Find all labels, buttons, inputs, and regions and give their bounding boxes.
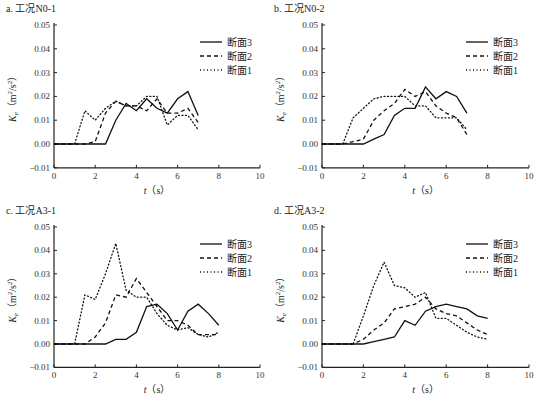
x-tick-label: 4	[403, 370, 408, 380]
x-tick-label: 0	[52, 171, 57, 181]
x-tick-label: 6	[444, 171, 449, 181]
x-tick-label: 10	[525, 370, 535, 380]
x-tick-label: 4	[134, 370, 139, 380]
y-tick-label: 0.01	[34, 316, 50, 326]
x-tick-label: 0	[320, 370, 325, 380]
panel-title: b. 工况N0-2	[274, 3, 325, 14]
x-tick-label: 2	[93, 370, 98, 380]
x-tick-label: 4	[403, 171, 408, 181]
legend-label: 断面1	[227, 64, 252, 76]
y-tick-label: 0.00	[34, 139, 50, 149]
y-tick-label: 0.05	[34, 20, 50, 30]
x-tick-label: 6	[175, 171, 180, 181]
y-tick-label: 0.02	[34, 91, 50, 101]
y-tick-label: 0.02	[302, 91, 318, 101]
x-tick-label: 8	[485, 370, 490, 380]
y-tick-label: 0.01	[302, 115, 318, 125]
x-axis-label: t（s）	[144, 384, 171, 395]
y-tick-label: 0.04	[34, 245, 50, 255]
series-line-solid	[54, 304, 219, 344]
y-tick-label: 0.03	[302, 68, 318, 78]
y-tick-label: 0.04	[302, 44, 318, 54]
panel-c-a3-1: c. 工况A3-1−0.010.000.010.020.030.040.0502…	[6, 205, 265, 395]
series-line-dashed	[54, 279, 219, 345]
legend-label: 断面3	[493, 238, 518, 250]
figure-canvas: a. 工况N0-1−0.010.000.010.020.030.040.0502…	[0, 0, 539, 406]
x-tick-label: 6	[175, 370, 180, 380]
x-tick-label: 0	[320, 171, 325, 181]
y-tick-label: 0.04	[34, 44, 50, 54]
x-tick-label: 10	[525, 171, 535, 181]
x-axis-label: t（s）	[412, 185, 439, 196]
x-tick-label: 2	[361, 171, 366, 181]
y-tick-label: −0.01	[29, 362, 50, 372]
y-tick-label: 0.03	[34, 269, 50, 279]
y-tick-label: −0.01	[297, 362, 318, 372]
x-tick-label: 10	[256, 370, 266, 380]
x-tick-label: 2	[93, 171, 98, 181]
legend-label: 断面2	[227, 252, 252, 264]
legend-label: 断面1	[493, 64, 518, 76]
panel-title: d. 工况A3-2	[274, 205, 325, 216]
x-tick-label: 8	[217, 171, 222, 181]
legend-label: 断面3	[493, 36, 518, 48]
panel-title: a. 工况N0-1	[6, 3, 56, 14]
y-tick-label: 0.00	[34, 339, 50, 349]
panel-b-n0-2: b. 工况N0-2−0.010.000.010.020.030.040.0502…	[274, 3, 534, 196]
y-tick-label: 0.04	[302, 245, 318, 255]
y-tick-label: 0.05	[302, 222, 318, 232]
y-tick-label: 0.05	[302, 20, 318, 30]
y-tick-label: 0.02	[34, 292, 50, 302]
y-tick-label: −0.01	[29, 163, 50, 173]
series-line-solid	[322, 87, 467, 144]
legend-label: 断面1	[227, 266, 252, 278]
series-line-dotted	[322, 96, 467, 144]
y-tick-label: 0.02	[302, 292, 318, 302]
series-line-dotted	[322, 262, 488, 344]
y-tick-label: 0.03	[34, 68, 50, 78]
x-axis-label: t（s）	[144, 185, 171, 196]
y-tick-label: 0.00	[302, 339, 318, 349]
y-axis-label: Ke（m2/s2）	[6, 71, 20, 123]
legend-label: 断面2	[493, 252, 518, 264]
legend-label: 断面2	[227, 50, 252, 62]
legend-label: 断面2	[493, 50, 518, 62]
series-line-dotted	[54, 243, 219, 344]
x-tick-label: 2	[361, 370, 366, 380]
y-axis-label: Ke（m2/s2）	[274, 71, 288, 123]
legend-label: 断面1	[493, 266, 518, 278]
x-tick-label: 10	[256, 171, 266, 181]
x-axis-label: t（s）	[412, 384, 439, 395]
x-tick-label: 6	[444, 370, 449, 380]
y-tick-label: −0.01	[297, 163, 318, 173]
x-tick-label: 4	[134, 171, 139, 181]
y-tick-label: 0.01	[34, 115, 50, 125]
legend-label: 断面3	[227, 36, 252, 48]
y-tick-label: 0.01	[302, 316, 318, 326]
x-tick-label: 8	[217, 370, 222, 380]
x-tick-label: 8	[485, 171, 490, 181]
legend-label: 断面3	[227, 238, 252, 250]
y-axis-label: Ke（m2/s2）	[6, 272, 20, 324]
x-tick-label: 0	[52, 370, 57, 380]
y-tick-label: 0.00	[302, 139, 318, 149]
panel-d-a3-2: d. 工况A3-2−0.010.000.010.020.030.040.0502…	[274, 205, 534, 395]
series-line-solid	[322, 304, 488, 344]
panel-title: c. 工况A3-1	[6, 205, 56, 216]
y-axis-label: Ke（m2/s2）	[274, 272, 288, 324]
panel-a-n0-1: a. 工况N0-1−0.010.000.010.020.030.040.0502…	[6, 3, 265, 196]
y-tick-label: 0.03	[302, 269, 318, 279]
y-tick-label: 0.05	[34, 222, 50, 232]
series-line-solid	[54, 92, 198, 144]
